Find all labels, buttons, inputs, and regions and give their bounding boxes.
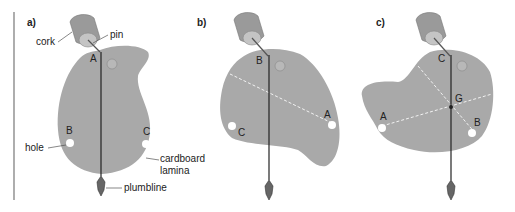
plumb-bob-icon <box>265 180 273 200</box>
point-label: A <box>90 53 97 64</box>
hole-a <box>378 124 386 132</box>
lamina-label-2: lamina <box>160 165 190 176</box>
panel-b: b) B A C <box>197 13 340 200</box>
hole-b <box>468 129 476 137</box>
plumb-bob-icon <box>97 176 105 196</box>
point-label: A <box>380 111 387 122</box>
hole-pin <box>275 61 285 71</box>
point-label: A <box>324 109 331 120</box>
plumbline-label: plumbline <box>124 182 167 193</box>
diagram: a) A B C cork pin hole cardboard lamina … <box>0 0 515 212</box>
lamina-c <box>362 50 493 153</box>
hole-a-pin <box>107 59 117 69</box>
cork-label: cork <box>36 36 56 47</box>
panel-b-label: b) <box>197 17 206 28</box>
point-label: B <box>474 117 481 128</box>
panel-c: c) C A B G <box>362 13 493 200</box>
panel-a-label: a) <box>27 17 36 28</box>
hole-b <box>66 139 74 147</box>
hole-label: hole <box>25 142 44 153</box>
plumb-bob-icon <box>447 180 455 200</box>
cork-icon <box>70 15 100 52</box>
point-label: B <box>256 55 263 66</box>
point-label: B <box>66 125 73 136</box>
hole-pin <box>457 61 467 71</box>
panel-a: a) A B C cork pin hole cardboard lamina … <box>25 15 205 196</box>
point-label: C <box>238 127 245 138</box>
point-label: C <box>143 126 150 137</box>
centre-of-gravity-dot <box>449 105 453 109</box>
hole-a <box>328 121 336 129</box>
hole-c <box>142 140 150 148</box>
pin-label: pin <box>110 29 123 40</box>
lamina-a <box>58 46 150 174</box>
cork-icon <box>234 13 268 56</box>
lamina-label-1: cardboard <box>160 153 205 164</box>
point-label-g: G <box>455 93 463 104</box>
panel-c-label: c) <box>376 17 385 28</box>
point-label: C <box>438 53 445 64</box>
cork-icon <box>416 13 450 56</box>
hole-c <box>228 122 236 130</box>
